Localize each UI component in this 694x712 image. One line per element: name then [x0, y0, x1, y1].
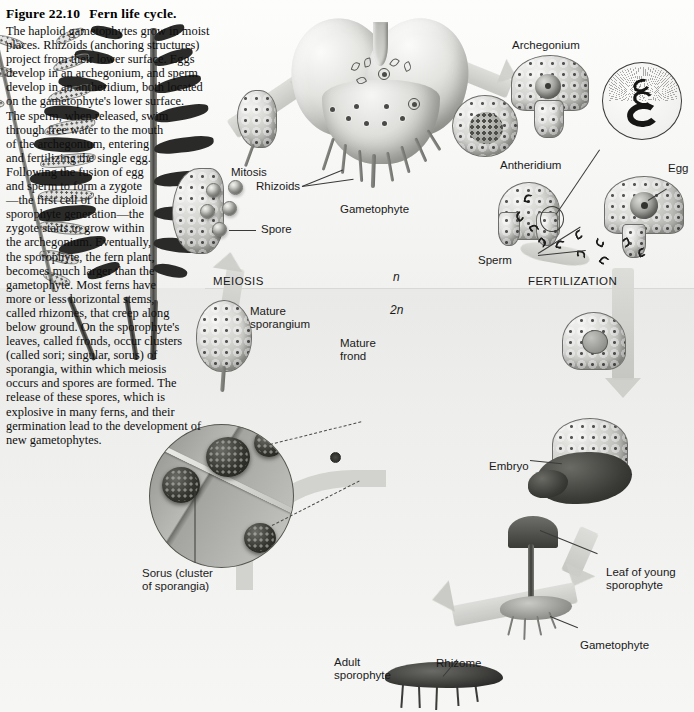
figure-title-text: Fern life cycle.	[89, 6, 177, 21]
arrow-zygote-to-embryo-head	[605, 378, 641, 398]
figure-caption-text: The haploid gametophytes grow in moist p…	[6, 24, 211, 447]
archegonium-neck	[534, 100, 564, 138]
sorus-art	[244, 523, 276, 553]
label-leaf-young-sporophyte: Leaf of young sporophyte	[606, 566, 676, 591]
antheridium-art	[452, 95, 518, 157]
label-diploid-2n: 2n	[390, 304, 403, 317]
label-gametophyte-top: Gametophyte	[340, 203, 409, 216]
zygote-cell	[582, 330, 608, 354]
leader-spore	[229, 230, 256, 231]
label-rhizoids: Rhizoids	[256, 180, 300, 193]
figure-title: Figure 22.10Fern life cycle.	[6, 6, 211, 22]
germinating-spore-art	[237, 90, 277, 148]
sorus-source-marker	[330, 452, 341, 463]
label-mature-sporangium: Mature sporangium	[250, 305, 310, 330]
spore-art	[222, 201, 237, 216]
figure-number: Figure 22.10	[6, 6, 80, 21]
archegonium-egg-cell	[535, 74, 561, 99]
gametophyte-prothallus-art	[292, 18, 468, 168]
label-egg: Egg	[668, 162, 688, 175]
label-gametophyte-bottom: Gametophyte	[580, 639, 649, 652]
label-sorus: Sorus (cluster of sporangia)	[142, 567, 213, 592]
label-sperm: Sperm	[478, 254, 512, 267]
label-fertilization: FERTILIZATION	[528, 275, 617, 288]
label-meiosis: MEIOSIS	[213, 275, 264, 288]
label-embryo: Embryo	[489, 460, 529, 473]
label-haploid-n: n	[393, 271, 400, 284]
label-spore: Spore	[261, 223, 292, 236]
spore-art	[212, 222, 227, 237]
label-mitosis: Mitosis	[231, 166, 267, 179]
young-sporophyte-leaf-art	[508, 516, 558, 548]
figure-caption: Figure 22.10Fern life cycle. The haploid…	[6, 6, 211, 447]
label-antheridium: Antheridium	[500, 159, 561, 172]
sperm-magnified-inset	[602, 62, 682, 140]
label-mature-frond: Mature frond	[340, 337, 376, 362]
label-adult-sporophyte: Adult sporophyte	[334, 656, 391, 681]
young-sporophyte-stem	[528, 544, 534, 600]
fern-life-cycle-figure: Mitosis Spore Rhizoids Gametophyte Arche…	[0, 0, 694, 712]
leader-sorus	[195, 491, 196, 563]
spore-art	[228, 180, 243, 195]
sorus-art	[206, 437, 250, 477]
label-archegonium: Archegonium	[512, 39, 580, 52]
label-rhizome: Rhizome	[436, 657, 481, 670]
sperm-callout-circle	[540, 206, 564, 232]
